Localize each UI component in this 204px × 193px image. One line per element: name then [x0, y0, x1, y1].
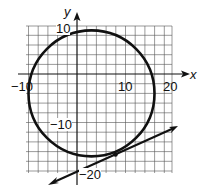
x-axis-label: x [190, 68, 197, 81]
graph [0, 0, 204, 193]
y-tick-neg20: −20 [79, 168, 101, 181]
x-tick-20: 20 [163, 80, 177, 93]
x-tick-10: 10 [118, 80, 132, 93]
y-axis-label: y [64, 5, 71, 18]
x-tick-neg10: −10 [11, 80, 33, 93]
y-tick-10: 10 [56, 22, 70, 35]
y-tick-neg10: −10 [50, 118, 72, 131]
tangent-point [113, 152, 118, 157]
